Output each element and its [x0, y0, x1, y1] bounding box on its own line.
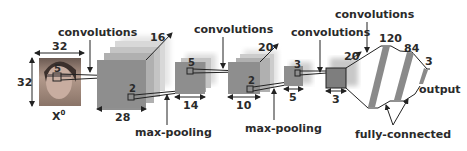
- conv1-feature-maps: 2 28 16: [97, 31, 172, 124]
- conv3-feature-maps: 3 20: [326, 50, 361, 106]
- conv3-size-label: 3: [332, 93, 340, 106]
- conv2-size-label: 10: [236, 99, 252, 112]
- fc-bar-120: [368, 46, 390, 107]
- fc-bar-84: [394, 52, 414, 100]
- annotation-arrow-fc-b: [393, 99, 408, 125]
- input-height-label: 32: [17, 76, 32, 89]
- input-label: X0: [52, 109, 65, 123]
- pool1-feature-maps: 5 14: [175, 54, 216, 112]
- conv2-depth-label: 20: [258, 41, 274, 54]
- kernel-label-input: 5: [54, 63, 61, 74]
- cnn-architecture-diagram: 5 32 32 X0 2 28 16 5 14: [0, 0, 467, 151]
- conv1-size-label: 28: [115, 111, 130, 124]
- annotation-max-pooling-1: max-pooling: [135, 126, 212, 139]
- conv2-feature-maps: 2 10 20: [228, 41, 278, 112]
- conv3-front-map: [326, 68, 346, 88]
- pool2-feature-maps: 3 5: [284, 59, 312, 104]
- annotation-convolutions-1: convolutions: [58, 26, 138, 39]
- output-label: output: [419, 83, 461, 96]
- pool1-size-label: 14: [183, 99, 199, 112]
- pool2-size-label: 5: [289, 91, 297, 104]
- input-width-label: 32: [52, 40, 67, 53]
- annotation-convolutions-2: convolutions: [194, 23, 274, 36]
- kernel-label-conv2: 2: [248, 75, 255, 86]
- conv1-front-map: [97, 60, 146, 108]
- conv2-front-map: [228, 62, 260, 94]
- kernel-label-pool2: 3: [294, 59, 301, 70]
- fc-units-120: 120: [379, 32, 402, 45]
- fc-bar-3: [419, 68, 428, 84]
- conv1-depth-label: 16: [150, 31, 166, 44]
- fc-units-3: 3: [425, 55, 433, 68]
- annotation-max-pooling-2: max-pooling: [245, 122, 322, 135]
- annotation-fully-connected: fully-connected: [355, 128, 451, 141]
- fully-connected-block: 120 84 3 output: [346, 32, 461, 108]
- fc-units-84: 84: [404, 42, 420, 55]
- fc-outline-bottom: [346, 86, 420, 108]
- kernel-label-pool1: 5: [188, 57, 195, 68]
- kernel-label-conv1: 2: [129, 83, 136, 94]
- annotation-convolutions-4: convolutions: [335, 8, 415, 21]
- annotation-arrow-fc-a: [386, 105, 393, 125]
- annotation-convolutions-3: convolutions: [291, 26, 371, 39]
- input-image-group: 5 32 32 X0: [17, 40, 84, 123]
